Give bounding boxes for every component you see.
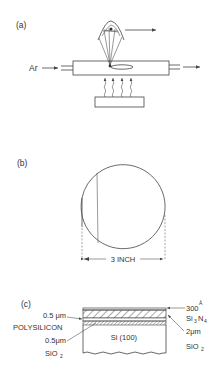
nitride-sub-3: 3 xyxy=(194,318,197,324)
right-oxide-material: SiO 2 xyxy=(186,342,204,352)
heat-ray xyxy=(130,78,132,97)
heat-radiation xyxy=(104,78,132,97)
gas-label: Ar xyxy=(29,63,38,73)
dimension-label: 3 INCH xyxy=(111,255,136,264)
sample xyxy=(111,65,133,69)
nitride-si: Si xyxy=(186,314,193,323)
nitride-material: Si 3 N 4 xyxy=(186,314,207,324)
nitride-sub-4: 4 xyxy=(204,318,207,324)
poly-leader xyxy=(67,317,82,319)
layer-stack: Si (100) xyxy=(83,308,166,354)
reaction-tube xyxy=(61,61,180,75)
wafer-flat-edge xyxy=(82,173,98,198)
oxide-thickness-label: 0.5μm xyxy=(45,336,66,345)
panel-b-label: (b) xyxy=(17,158,28,168)
panel-a: (a) Ar xyxy=(16,20,200,107)
panel-a-label: (a) xyxy=(16,20,27,30)
figure-diagram: (a) Ar xyxy=(0,0,218,374)
angstrom-unit: Å xyxy=(199,300,203,306)
poly-material-label: POLYSILICON xyxy=(13,323,62,332)
reflector-with-rays xyxy=(98,21,156,65)
wafer-outline xyxy=(81,165,165,249)
oxide-subscript: 2 xyxy=(60,353,63,359)
thick-oxide-leader xyxy=(168,315,184,331)
dimension-arrowhead-left xyxy=(84,257,89,261)
thick-oxide-layer xyxy=(83,310,166,318)
heat-ray xyxy=(121,78,123,97)
thick-oxide-material-label: SiO xyxy=(186,342,199,351)
panel-c: (c) Si (100) 0.5 μm POLYSILICON 0.5μm Si… xyxy=(13,299,207,359)
thick-oxide-subscript: 2 xyxy=(201,346,204,352)
substrate-label: Si (100) xyxy=(111,333,138,342)
heat-ray xyxy=(112,78,114,97)
oxide-leader xyxy=(67,323,96,341)
poly-thickness-label: 0.5 μm xyxy=(43,311,66,320)
wafer-cut-line xyxy=(97,173,98,243)
oxide-material-label: SiO xyxy=(45,349,58,358)
panel-c-label: (c) xyxy=(21,299,31,309)
nitride-thickness-label: 300 xyxy=(186,304,199,313)
tube-body xyxy=(73,61,169,75)
polysilicon-layer xyxy=(83,318,166,321)
left-oxide-material: SiO 2 xyxy=(45,349,63,359)
nitride-n: N xyxy=(198,314,203,323)
panel-b: (b) 3 INCH xyxy=(17,158,165,264)
focal-point xyxy=(110,28,113,31)
sample-spot xyxy=(109,65,112,68)
heat-ray xyxy=(104,78,106,97)
thick-oxide-thickness-label: 2μm xyxy=(186,327,201,336)
heater-block xyxy=(95,97,144,107)
